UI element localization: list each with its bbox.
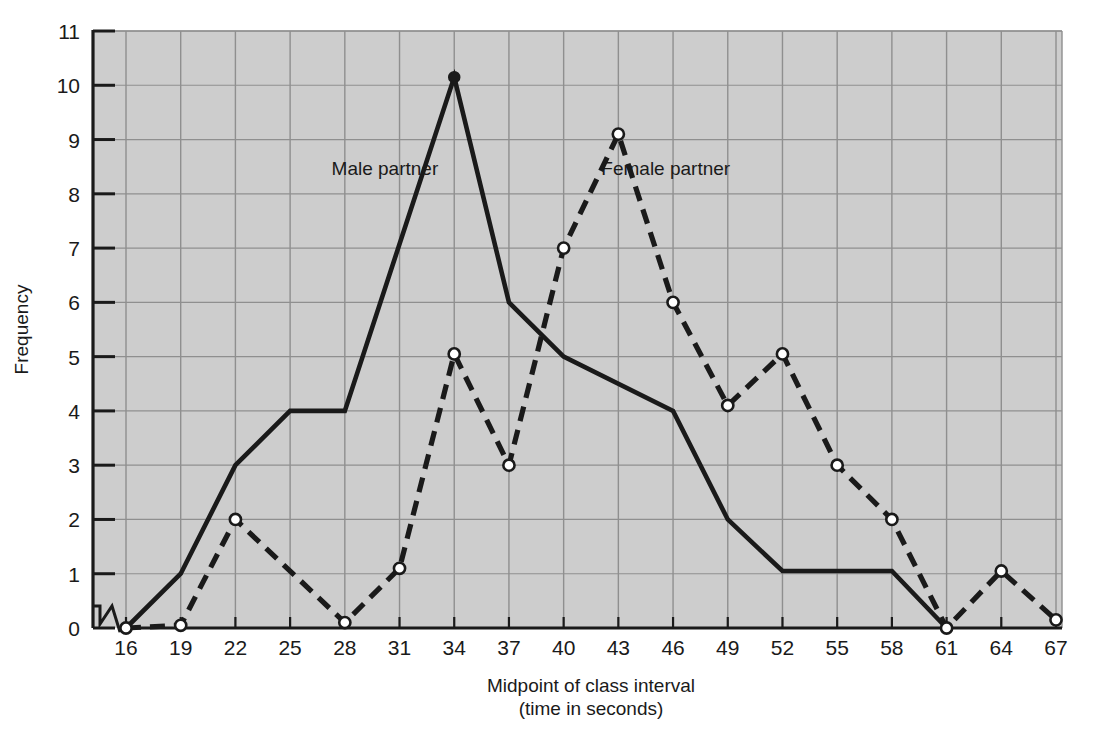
y-tick-label: 10 bbox=[57, 74, 80, 97]
x-tick-label: 64 bbox=[990, 636, 1014, 659]
data-point-marker bbox=[558, 242, 569, 253]
x-tick-label: 25 bbox=[278, 636, 301, 659]
data-point-marker bbox=[449, 72, 460, 83]
chart-canvas: 161922252831343740434649525558616467 012… bbox=[0, 0, 1101, 743]
data-point-marker bbox=[339, 617, 350, 628]
y-tick-label: 0 bbox=[68, 617, 80, 640]
plot-background bbox=[93, 31, 1062, 628]
x-tick-label: 52 bbox=[771, 636, 794, 659]
y-tick-label: 3 bbox=[68, 454, 80, 477]
data-point-marker bbox=[996, 565, 1007, 576]
data-point-marker bbox=[394, 563, 405, 574]
x-tick-label: 67 bbox=[1044, 636, 1067, 659]
data-point-marker bbox=[667, 297, 678, 308]
data-point-marker bbox=[120, 622, 131, 633]
y-tick-label: 8 bbox=[68, 183, 80, 206]
data-point-marker bbox=[886, 514, 897, 525]
x-tick-label: 61 bbox=[935, 636, 958, 659]
data-point-marker bbox=[832, 460, 843, 471]
x-tick-label: 46 bbox=[661, 636, 684, 659]
y-tick-label: 11 bbox=[58, 20, 80, 43]
y-tick-label: 2 bbox=[68, 508, 80, 531]
x-tick-label: 43 bbox=[607, 636, 630, 659]
data-point-marker bbox=[941, 622, 952, 633]
x-tick-label: 34 bbox=[443, 636, 467, 659]
x-tick-label: 49 bbox=[716, 636, 739, 659]
data-point-marker bbox=[722, 400, 733, 411]
y-axis-title: Frequency bbox=[11, 284, 32, 374]
y-tick-label: 9 bbox=[68, 129, 80, 152]
y-tick-label: 1 bbox=[68, 563, 80, 586]
x-tick-label: 55 bbox=[825, 636, 848, 659]
x-tick-label: 31 bbox=[388, 636, 411, 659]
plot-area bbox=[93, 31, 1062, 628]
y-tick-label: 7 bbox=[68, 237, 80, 260]
series-annotation-female-partner: Female partner bbox=[601, 158, 731, 179]
frequency-polygon-chart: 161922252831343740434649525558616467 012… bbox=[0, 0, 1101, 743]
x-axis-title: Midpoint of class interval bbox=[487, 675, 695, 696]
data-point-marker bbox=[503, 460, 514, 471]
data-point-marker bbox=[613, 129, 624, 140]
y-tick-label: 6 bbox=[68, 291, 80, 314]
x-tick-label: 40 bbox=[552, 636, 575, 659]
data-point-marker bbox=[1050, 614, 1061, 625]
x-tick-label: 37 bbox=[497, 636, 520, 659]
x-axis-subtitle: (time in seconds) bbox=[519, 698, 664, 719]
y-tick-label: 4 bbox=[68, 400, 80, 423]
data-point-marker bbox=[449, 348, 460, 359]
x-tick-label: 16 bbox=[114, 636, 137, 659]
data-point-marker bbox=[175, 620, 186, 631]
data-point-marker bbox=[777, 348, 788, 359]
x-tick-label: 19 bbox=[169, 636, 192, 659]
x-tick-label: 58 bbox=[880, 636, 903, 659]
series-annotation-male-partner: Male partner bbox=[332, 158, 439, 179]
y-tick-label: 5 bbox=[68, 346, 80, 369]
data-point-marker bbox=[230, 514, 241, 525]
x-tick-label: 28 bbox=[333, 636, 356, 659]
x-tick-label: 22 bbox=[224, 636, 247, 659]
